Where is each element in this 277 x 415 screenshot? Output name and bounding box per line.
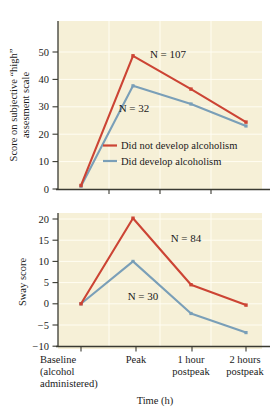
top-y-axis-title: Score on subjective “high” assesment sca… bbox=[8, 48, 31, 161]
xaxis-label-1hour-line2: postpeak bbox=[172, 366, 210, 377]
top-ytick-50: 50 bbox=[39, 47, 50, 58]
bottom-ytick-5: 5 bbox=[44, 277, 49, 288]
bottom-ytick-neg10: −10 bbox=[33, 341, 49, 352]
xaxis-label-peak-line1: Peak bbox=[126, 354, 147, 365]
bottom-annotation-blue: N = 30 bbox=[128, 290, 159, 302]
bottom-y-ticks bbox=[53, 219, 59, 346]
legend-item-did-not-develop[interactable]: Did not develop alcoholism bbox=[103, 140, 237, 151]
top-chart: 50 40 30 20 10 0 Score on subjective “hi… bbox=[8, 21, 270, 195]
xaxis-label-1hour-line1: 1 hour bbox=[177, 354, 205, 365]
bottom-y-axis-title-text: Sway score bbox=[17, 258, 28, 306]
xaxis-category-labels: Baseline (alcohol administered) Peak 1 h… bbox=[40, 354, 264, 390]
top-ytick-0: 0 bbox=[44, 184, 49, 195]
bottom-annotation-red: N = 84 bbox=[171, 232, 202, 244]
bottom-ytick-neg5: −5 bbox=[38, 320, 49, 331]
top-x-ticks bbox=[109, 190, 211, 195]
xaxis-label-2hours-line2: postpeak bbox=[226, 366, 264, 377]
bottom-ytick-20: 20 bbox=[39, 214, 50, 225]
top-y-axis-title-line2: assesment scale bbox=[20, 72, 31, 139]
top-ytick-10: 10 bbox=[39, 156, 50, 167]
xaxis-label-2hours-postpeak: 2 hours postpeak bbox=[226, 354, 264, 377]
figure-container: 50 40 30 20 10 0 Score on subjective “hi… bbox=[0, 0, 277, 415]
chart-svg: 50 40 30 20 10 0 Score on subjective “hi… bbox=[0, 0, 277, 415]
top-y-ticks bbox=[53, 52, 59, 189]
top-ytick-40: 40 bbox=[39, 74, 50, 85]
xaxis-label-baseline: Baseline (alcohol administered) bbox=[40, 354, 98, 390]
bottom-y-axis-title: Sway score bbox=[17, 258, 28, 306]
legend-item-did-develop[interactable]: Did develop alcoholism bbox=[103, 156, 221, 167]
legend-label-did-not-develop: Did not develop alcoholism bbox=[121, 140, 237, 151]
top-ytick-20: 20 bbox=[39, 129, 50, 140]
top-ytick-30: 30 bbox=[39, 101, 50, 112]
xaxis-title: Time (h) bbox=[137, 395, 174, 407]
xaxis-label-baseline-line3: administered) bbox=[40, 378, 98, 390]
top-annotation-blue: N = 32 bbox=[119, 102, 150, 114]
xaxis-label-2hours-line1: 2 hours bbox=[229, 354, 260, 365]
bottom-ytick-0: 0 bbox=[44, 298, 49, 309]
bottom-ytick-10: 10 bbox=[39, 256, 50, 267]
bottom-chart: 20 15 10 5 0 −5 −10 Sway score bbox=[17, 213, 270, 407]
legend-label-did-develop: Did develop alcoholism bbox=[121, 156, 221, 167]
top-y-axis-title-line1: Score on subjective “high” bbox=[8, 48, 19, 161]
bottom-ytick-15: 15 bbox=[39, 235, 50, 246]
xaxis-label-baseline-line2: (alcohol bbox=[40, 366, 74, 378]
top-annotation-red: N = 107 bbox=[150, 48, 187, 60]
xaxis-label-baseline-line1: Baseline bbox=[40, 354, 76, 365]
xaxis-label-1hour-postpeak: 1 hour postpeak bbox=[172, 354, 210, 377]
xaxis-label-peak: Peak bbox=[126, 354, 147, 365]
